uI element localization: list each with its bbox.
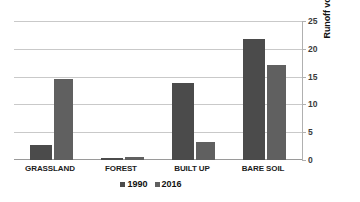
y-tick-15 <box>302 77 306 78</box>
y-axis-label-0: 0 <box>308 156 313 165</box>
legend-item-1990[interactable]: 1990 <box>120 180 147 189</box>
category-label-builtup: BUILT UP <box>156 164 228 173</box>
plot-area <box>14 21 302 160</box>
bar-builtup-1990 <box>172 83 194 160</box>
legend-label-2016: 2016 <box>162 180 182 189</box>
category-label-forest: FOREST <box>85 164 157 173</box>
y-tick-25 <box>302 21 306 22</box>
legend-swatch-icon-1990 <box>120 182 125 187</box>
y-tick-0 <box>302 160 306 161</box>
gridline-25 <box>14 21 302 22</box>
category-label-baresoil: BARE SOIL <box>227 164 299 173</box>
y-tick-10 <box>302 104 306 105</box>
category-label-grassland: GRASSLAND <box>14 164 86 173</box>
bar-grassland-1990 <box>30 145 52 160</box>
y-axis-label-20: 20 <box>308 45 317 54</box>
bar-builtup-2016 <box>196 142 215 160</box>
legend-swatch-icon-2016 <box>155 182 160 187</box>
legend-label-1990: 1990 <box>127 180 147 189</box>
bar-baresoil-2016 <box>267 65 286 160</box>
bar-forest-2016 <box>125 157 144 160</box>
bar-chart: 25 20 15 10 5 0 Runoff volume in million… <box>0 0 360 202</box>
bar-baresoil-1990 <box>243 39 265 160</box>
y-axis-title: Runoff volume in million metre cubic <box>322 0 348 44</box>
y-axis-label-10: 10 <box>308 100 317 109</box>
y-axis-label-25: 25 <box>308 17 317 26</box>
y-axis-label-5: 5 <box>308 128 313 137</box>
y-tick-5 <box>302 132 306 133</box>
bar-grassland-2016 <box>54 79 73 160</box>
legend-item-2016[interactable]: 2016 <box>155 180 182 189</box>
y-axis-line <box>302 21 303 161</box>
chart-legend: 1990 2016 <box>0 180 302 189</box>
y-tick-20 <box>302 49 306 50</box>
y-axis-label-15: 15 <box>308 72 317 81</box>
bar-forest-1990 <box>101 158 123 160</box>
